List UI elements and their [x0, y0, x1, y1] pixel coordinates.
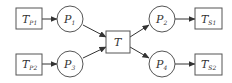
petri-net-diagram: TP1 TP2 P1 P3 T P2 P4 TS1 TS2 — [0, 0, 232, 83]
place-p3: P3 — [57, 51, 83, 77]
place-p2: P2 — [149, 6, 175, 32]
transition-tp1: TP1 — [16, 8, 42, 29]
transition-ts1: TS1 — [195, 8, 222, 29]
edge-p3-t — [83, 47, 106, 58]
edge-t-p2 — [130, 25, 149, 37]
transition-t: T — [106, 31, 130, 53]
transition-tp2: TP2 — [16, 54, 42, 75]
place-p4: P4 — [149, 51, 175, 77]
edge-t-p4 — [130, 47, 149, 58]
place-p1: P1 — [57, 6, 83, 32]
edge-p1-t — [83, 25, 106, 37]
transition-ts2: TS2 — [195, 54, 222, 75]
